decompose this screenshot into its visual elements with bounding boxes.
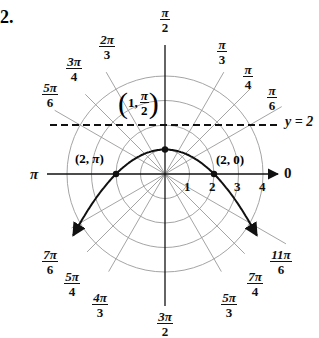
angle-label-240: 4π3 [88,291,112,319]
directrix-label: y = 2 [285,115,313,129]
angle-label-315: 7π4 [243,270,267,298]
angle-label-135: 3π4 [62,55,86,83]
radius-label-2: 2 [209,180,216,193]
angle-label-210: 7π6 [38,248,62,276]
angle-label-330: 11π6 [269,248,293,276]
point-marker-2 [113,171,119,177]
grid-ray-240 [109,174,165,272]
angle-label-0: 0 [284,166,292,181]
angle-label-30: π6 [260,84,284,112]
polar-chart: 2. π6π4π3π22π33π45π67π65π44π33π25π37π411… [0,0,319,338]
grid-ray-150 [55,110,165,174]
grid-ray-225 [87,174,165,252]
polar-plot-area [0,0,319,338]
polar-grid [55,72,286,272]
radius-label-3: 3 [234,180,241,193]
angle-label-225: 5π4 [60,270,84,298]
point-label-2-0: (2, 0) [216,152,244,168]
angle-label-150: 5π6 [38,81,62,109]
grid-ray-210 [72,174,165,228]
radius-label-1: 1 [184,180,191,193]
angle-label-45: π4 [236,63,260,91]
point-marker-1 [162,146,168,152]
point-label-1-pi-over-2: ( 1, π2 ) [118,88,159,118]
angle-label-60: π3 [210,38,234,66]
radius-label-4: 4 [259,180,266,193]
angle-label-pi: π [30,167,38,182]
grid-ray-315 [165,174,245,254]
point-label-2-pi: (2, π) [75,151,104,167]
point-marker-0 [211,171,217,177]
angle-label-90: π2 [153,6,177,34]
angle-label-270: 3π2 [153,310,177,338]
angle-label-120: 2π3 [95,33,119,61]
angle-label-300: 5π3 [217,291,241,319]
